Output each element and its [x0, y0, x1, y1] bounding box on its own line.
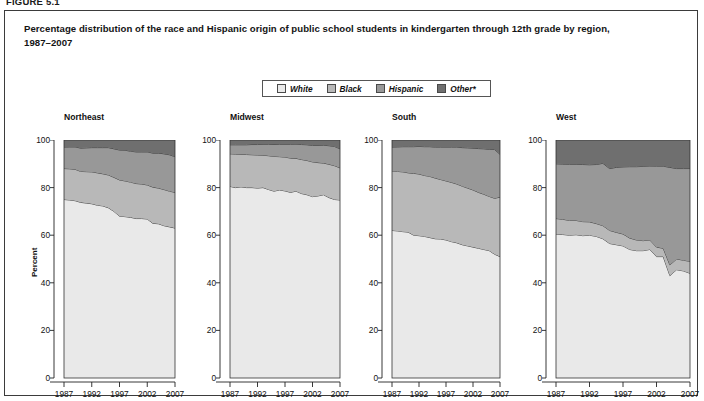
- legend-swatch-other: [437, 84, 446, 93]
- panel-title-midwest: Midwest: [230, 112, 264, 122]
- figure-number: FIGURE 5.1: [6, 0, 60, 7]
- panel-title-northeast: Northeast: [64, 112, 104, 122]
- x-tick-label-midwest-1992: 1992: [243, 389, 273, 399]
- area-west-other: [556, 140, 690, 169]
- figure-title-line-1: Percentage distribution of the race and …: [24, 22, 678, 36]
- legend-item-black[interactable]: Black: [327, 84, 362, 94]
- legend-item-other[interactable]: Other*: [437, 84, 475, 94]
- y-tick-label-northeast-0: 0: [28, 373, 50, 383]
- x-tick-label-west-1992: 1992: [575, 389, 605, 399]
- legend-label: Other*: [450, 84, 475, 94]
- x-tick-label-midwest-2002: 2002: [298, 389, 328, 399]
- plot-area-south: [352, 140, 508, 401]
- y-tick-label-northeast-20: 20: [28, 325, 50, 335]
- panel-title-west: West: [556, 112, 576, 122]
- x-tick-label-midwest-1987: 1987: [215, 389, 245, 399]
- figure-title-line-2: 1987–2007: [24, 36, 678, 50]
- y-tick-label-northeast-100: 100: [28, 135, 50, 145]
- legend-label: Hispanic: [389, 84, 424, 94]
- legend-swatch-white: [277, 84, 286, 93]
- x-tick-label-south-1997: 1997: [431, 389, 461, 399]
- y-tick-label-midwest-100: 100: [194, 135, 216, 145]
- x-tick-label-northeast-2002: 2002: [132, 389, 162, 399]
- y-tick-label-south-80: 80: [356, 183, 378, 193]
- legend-label: White: [290, 84, 313, 94]
- area-midwest-white: [230, 186, 340, 378]
- plot-area-midwest: [190, 140, 348, 401]
- y-tick-label-west-60: 60: [520, 230, 542, 240]
- y-tick-label-northeast-80: 80: [28, 183, 50, 193]
- legend-swatch-hispanic: [376, 84, 385, 93]
- x-tick-label-northeast-1987: 1987: [49, 389, 79, 399]
- figure-title: Percentage distribution of the race and …: [24, 22, 678, 49]
- x-tick-label-midwest-2007: 2007: [325, 389, 355, 399]
- x-tick-label-northeast-2007: 2007: [160, 389, 190, 399]
- legend-swatch-black: [327, 84, 336, 93]
- y-tick-label-northeast-40: 40: [28, 278, 50, 288]
- y-tick-label-midwest-40: 40: [194, 278, 216, 288]
- x-tick-label-south-1987: 1987: [377, 389, 407, 399]
- legend-item-white[interactable]: White: [277, 84, 313, 94]
- x-tick-label-midwest-1997: 1997: [270, 389, 300, 399]
- y-tick-label-south-40: 40: [356, 278, 378, 288]
- y-tick-label-south-60: 60: [356, 230, 378, 240]
- y-tick-label-south-0: 0: [356, 373, 378, 383]
- legend-item-hispanic[interactable]: Hispanic: [376, 84, 424, 94]
- y-tick-label-midwest-60: 60: [194, 230, 216, 240]
- x-tick-label-northeast-1997: 1997: [105, 389, 135, 399]
- plot-area-northeast: [24, 140, 183, 401]
- y-tick-label-west-20: 20: [520, 325, 542, 335]
- x-tick-label-west-2002: 2002: [642, 389, 672, 399]
- y-tick-label-west-80: 80: [520, 183, 542, 193]
- x-tick-label-south-2002: 2002: [458, 389, 488, 399]
- x-tick-label-west-1987: 1987: [541, 389, 571, 399]
- y-tick-label-west-40: 40: [520, 278, 542, 288]
- x-tick-label-west-1997: 1997: [608, 389, 638, 399]
- area-south-white: [392, 230, 500, 378]
- y-tick-label-south-100: 100: [356, 135, 378, 145]
- y-tick-label-northeast-60: 60: [28, 230, 50, 240]
- legend-label: Black: [340, 84, 362, 94]
- x-tick-label-northeast-1992: 1992: [77, 389, 107, 399]
- plot-area-west: [516, 140, 698, 401]
- area-northeast-white: [64, 200, 175, 379]
- y-tick-label-west-0: 0: [520, 373, 542, 383]
- y-tick-label-midwest-20: 20: [194, 325, 216, 335]
- y-tick-label-midwest-0: 0: [194, 373, 216, 383]
- chart-legend: WhiteBlackHispanicOther*: [262, 80, 491, 97]
- y-tick-label-west-100: 100: [520, 135, 542, 145]
- x-tick-label-south-2007: 2007: [485, 389, 515, 399]
- panel-title-south: South: [392, 112, 416, 122]
- x-tick-label-west-2007: 2007: [675, 389, 704, 399]
- y-tick-label-midwest-80: 80: [194, 183, 216, 193]
- y-tick-label-south-20: 20: [356, 325, 378, 335]
- x-tick-label-south-1992: 1992: [404, 389, 434, 399]
